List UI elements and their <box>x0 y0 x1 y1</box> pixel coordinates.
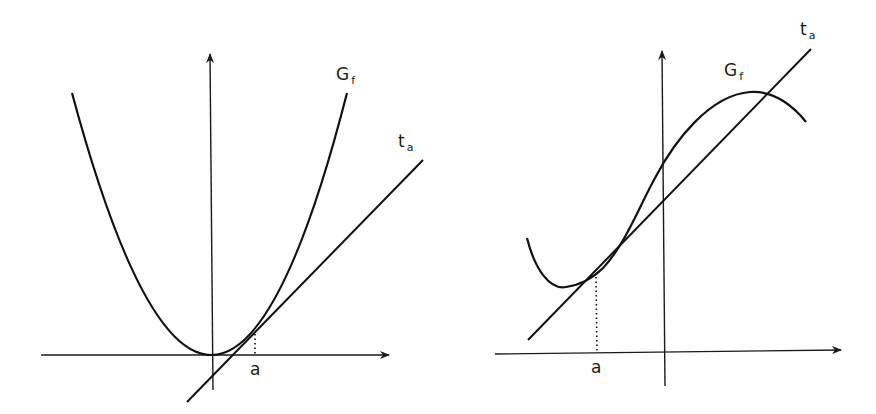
right-tangent-line <box>528 49 811 340</box>
diagram-svg: a Gf ta a Gf ta <box>0 0 876 414</box>
right-a-label: a <box>591 357 601 377</box>
right-graph-label: Gf <box>724 60 744 83</box>
right-graph-curve <box>527 92 806 287</box>
right-a-dropline <box>596 277 597 353</box>
left-graph-label: Gf <box>336 64 356 87</box>
right-panel: a Gf ta <box>495 19 841 386</box>
right-y-axis <box>662 51 665 386</box>
left-panel: a Gf ta <box>41 54 423 402</box>
left-y-axis <box>210 54 213 390</box>
left-tangent-line <box>187 160 423 402</box>
left-tangent-label: ta <box>398 131 413 154</box>
left-graph-curve <box>72 93 347 355</box>
left-a-label: a <box>250 359 260 379</box>
right-x-axis <box>495 350 841 354</box>
tangent-diagram: a Gf ta a Gf ta <box>0 0 876 414</box>
right-tangent-label: ta <box>800 19 815 42</box>
